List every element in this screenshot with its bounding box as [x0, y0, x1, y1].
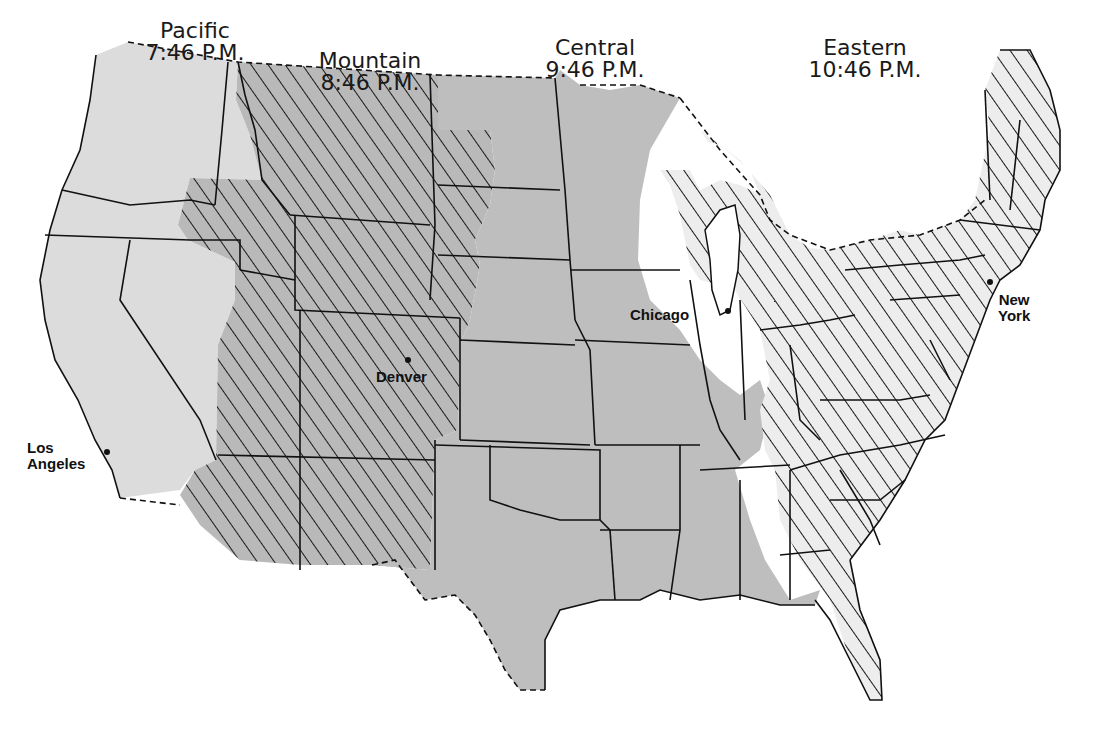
pacific-zone-time: 7:46 P.M.: [135, 42, 255, 64]
los-angeles-dot-icon: [104, 449, 110, 455]
new-york-label-line2: York: [998, 308, 1030, 324]
mountain-zone-time: 8:46 P.M.: [305, 72, 435, 94]
central-zone-name: Central: [530, 37, 660, 59]
mountain-zone-name: Mountain: [305, 50, 435, 72]
new-york-dot-icon: [987, 279, 993, 285]
new-york-label-line1: New: [998, 292, 1030, 308]
mountain-zone-label: Mountain 8:46 P.M.: [305, 50, 435, 94]
eastern-zone-label: Eastern 10:46 P.M.: [790, 37, 940, 81]
pacific-zone-name: Pacific: [135, 20, 255, 42]
denver-label-line1: Denver: [376, 369, 427, 385]
central-zone-label: Central 9:46 P.M.: [530, 37, 660, 81]
time-zone-map: [0, 0, 1105, 741]
pacific-zone-label: Pacific 7:46 P.M.: [135, 20, 255, 64]
los-angeles-label-line1: Los: [27, 440, 85, 456]
los-angeles-label-line2: Angeles: [27, 456, 85, 472]
new-york-label: New York: [998, 292, 1030, 324]
denver-dot-icon: [405, 357, 411, 363]
los-angeles-label: Los Angeles: [27, 440, 85, 472]
eastern-zone-name: Eastern: [790, 37, 940, 59]
central-zone-time: 9:46 P.M.: [530, 59, 660, 81]
chicago-dot-icon: [725, 308, 731, 314]
chicago-label-line1: Chicago: [630, 307, 689, 323]
eastern-zone-time: 10:46 P.M.: [790, 59, 940, 81]
chicago-label: Chicago: [630, 307, 689, 323]
denver-label: Denver: [376, 369, 427, 385]
